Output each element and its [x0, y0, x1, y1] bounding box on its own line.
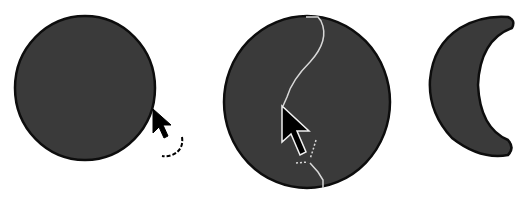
- panel-step-2: [224, 16, 390, 188]
- circle-shape[interactable]: [15, 16, 155, 160]
- panel-step-3: [430, 17, 513, 156]
- crescent-shape[interactable]: [430, 17, 513, 156]
- rotate-cursor-icon: [153, 109, 182, 156]
- circle-shape-cut[interactable]: [224, 16, 390, 188]
- illustration-canvas: [0, 0, 522, 199]
- panel-step-1: [15, 16, 182, 160]
